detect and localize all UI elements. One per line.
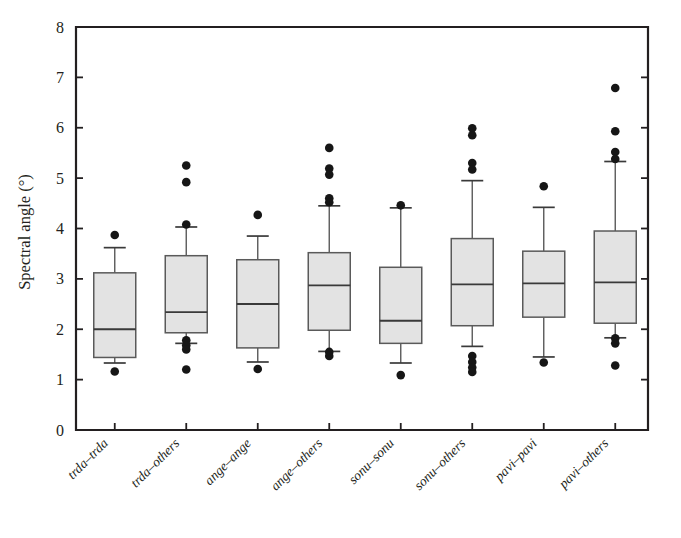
outlier-point [253,211,262,220]
outlier-point [325,170,334,179]
outlier-point [539,358,548,367]
y-axis-title: Spectral angle (°) [15,174,34,290]
y-tick-label: 5 [56,170,64,187]
outlier-point [110,367,119,376]
outlier-point [611,155,620,164]
y-tick-label: 1 [56,371,64,388]
outlier-point [110,231,119,240]
outlier-point [325,144,334,153]
outlier-point [611,127,620,136]
box-iqr [380,267,422,343]
boxplot-figure: 012345678 Spectral angle (°) trda–trdatr… [0,0,681,538]
outlier-point [325,352,334,361]
outlier-point [182,161,191,170]
y-tick-label: 4 [56,220,64,237]
y-tick-label: 3 [56,270,64,287]
outlier-point [611,339,620,348]
outlier-point [468,368,477,377]
outlier-point [468,165,477,174]
box-iqr [94,273,136,358]
box-iqr [594,231,636,323]
y-axis-label: Spectral angle (°) [15,174,34,290]
y-tick-label: 7 [56,69,64,86]
y-tick-label: 8 [56,19,64,36]
outlier-point [396,371,405,380]
outlier-point [611,84,620,93]
y-tick-label: 2 [56,321,64,338]
outlier-point [253,365,262,374]
outlier-point [182,345,191,354]
box-iqr [308,253,350,331]
outlier-point [396,201,405,210]
outlier-point [468,131,477,140]
outlier-point [182,365,191,374]
outlier-point [539,182,548,191]
box-iqr [451,239,493,326]
y-tick-label: 0 [56,422,64,439]
y-axis-tick-labels: 012345678 [56,19,64,439]
box-iqr [165,256,207,333]
outlier-point [182,220,191,229]
outlier-point [611,361,620,370]
spectral-angle-boxplot: 012345678 Spectral angle (°) trda–trdatr… [0,0,681,538]
outlier-point [325,198,334,207]
outlier-point [182,178,191,187]
y-tick-label: 6 [56,119,64,136]
